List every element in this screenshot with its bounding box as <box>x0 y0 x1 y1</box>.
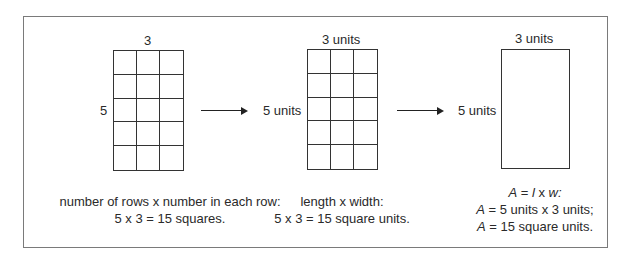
panel3-caption-line3: A = 15 square units. <box>460 218 610 235</box>
panel1-side-label: 5 <box>100 103 107 118</box>
panel3-caption-line1: A = l x w: <box>460 184 610 201</box>
panel1-top-label: 3 <box>144 33 151 48</box>
panel1-caption-line1: number of rows x number in each row: <box>40 193 300 210</box>
panel2-caption-line1: length x width: <box>262 193 422 210</box>
panel2-grid <box>307 49 378 170</box>
panel2-top-label: 3 units <box>322 32 360 47</box>
panel3-caption: A = l x w: A = 5 units x 3 units; A = 15… <box>460 184 610 235</box>
panel2-caption-line2: 5 x 3 = 15 square units. <box>262 210 422 227</box>
panel2-side-label: 5 units <box>263 103 301 118</box>
panel3-rectangle <box>501 49 570 169</box>
panel3-caption-line2: A = 5 units x 3 units; <box>460 201 610 218</box>
panel3-side-label: 5 units <box>458 103 496 118</box>
arrow-right-icon <box>201 110 246 111</box>
panel2-caption: length x width: 5 x 3 = 15 square units. <box>262 193 422 227</box>
panel1-grid <box>113 50 184 171</box>
panel1-caption-line2: 5 x 3 = 15 squares. <box>40 210 300 227</box>
panel1-caption: number of rows x number in each row: 5 x… <box>40 193 300 227</box>
panel3-top-label: 3 units <box>515 31 553 46</box>
arrow-right-icon <box>397 110 442 111</box>
